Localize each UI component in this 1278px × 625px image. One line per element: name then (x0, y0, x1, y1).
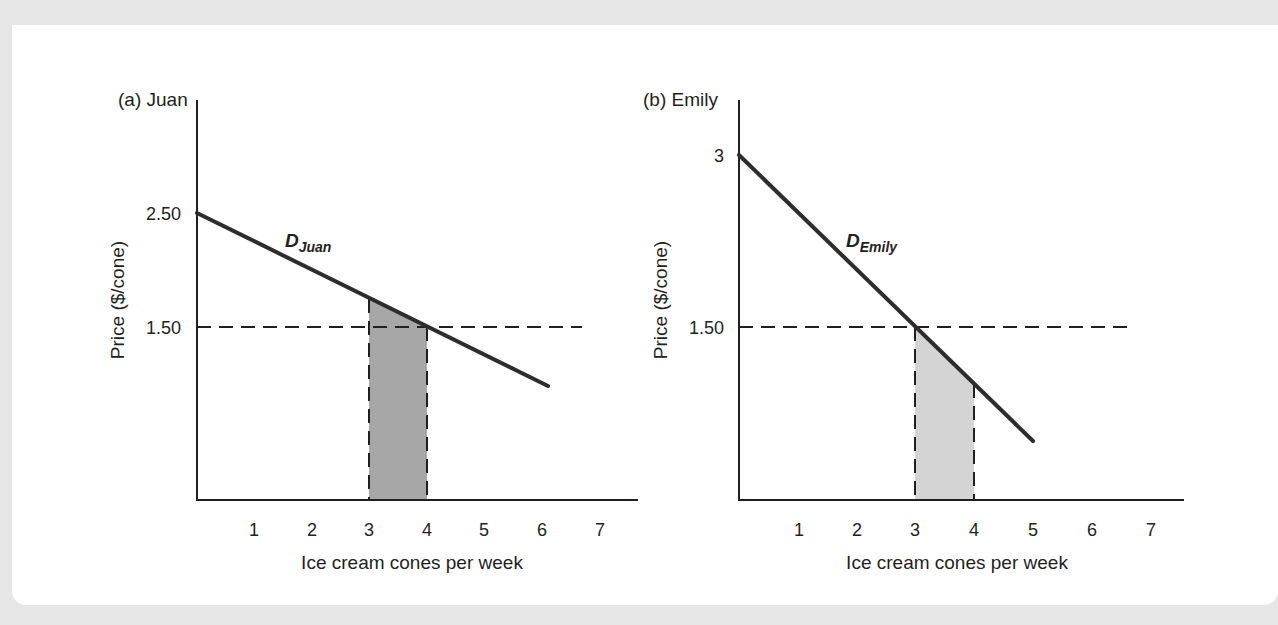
svg-text:1: 1 (794, 520, 804, 540)
panel-emily: (b) Emily DEmily 3 1.50 Price ($/cone) 1… (643, 89, 1184, 573)
svg-text:3: 3 (910, 520, 920, 540)
x-axis-label-juan: Ice cream cones per week (301, 552, 523, 573)
svg-text:6: 6 (1087, 520, 1097, 540)
svg-text:3: 3 (364, 520, 374, 540)
svg-text:5: 5 (479, 520, 489, 540)
svg-text:7: 7 (1146, 520, 1156, 540)
panel-title-emily: (b) Emily (643, 89, 718, 110)
panel-title-juan: (a) Juan (118, 89, 188, 110)
svg-text:6: 6 (537, 520, 547, 540)
x-ticks-juan: 1 2 3 4 5 6 7 (249, 520, 605, 540)
x-axis-label-emily: Ice cream cones per week (846, 552, 1068, 573)
y-axis-label-emily: Price ($/cone) (650, 241, 671, 359)
shaded-area-juan (369, 299, 427, 500)
panel-juan: (a) Juan DJuan 2.50 1.50 Price ($/cone) … (107, 89, 638, 573)
demand-label-emily: DEmily (846, 230, 898, 255)
y-tick-emily-3: 3 (714, 146, 724, 166)
figure-svg: (a) Juan DJuan 2.50 1.50 Price ($/cone) … (0, 0, 1278, 625)
svg-text:7: 7 (595, 520, 605, 540)
y-axis-label-juan: Price ($/cone) (107, 241, 128, 359)
svg-text:2: 2 (852, 520, 862, 540)
svg-text:2: 2 (307, 520, 317, 540)
y-tick-juan-2.50: 2.50 (146, 204, 181, 224)
x-ticks-emily: 1 2 3 4 5 6 7 (794, 520, 1156, 540)
svg-text:4: 4 (969, 520, 979, 540)
demand-curve-emily (739, 155, 1033, 441)
svg-text:5: 5 (1028, 520, 1038, 540)
svg-text:1: 1 (249, 520, 259, 540)
y-tick-juan-1.50: 1.50 (146, 318, 181, 338)
svg-text:4: 4 (422, 520, 432, 540)
demand-label-juan: DJuan (285, 230, 331, 255)
y-tick-emily-1.50: 1.50 (689, 318, 724, 338)
